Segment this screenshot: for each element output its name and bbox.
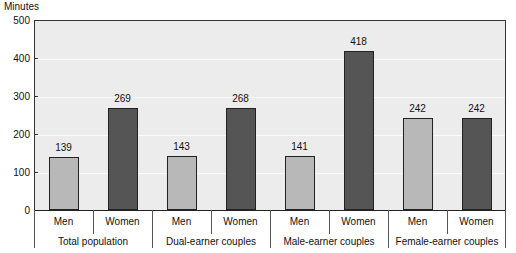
y-tick-mark <box>34 58 38 59</box>
bar-value-label: 242 <box>393 103 443 114</box>
category-label: Women <box>211 216 270 227</box>
group-label: Total population <box>34 236 152 247</box>
group-label: Dual-earner couples <box>152 236 270 247</box>
group-separator <box>505 210 506 248</box>
category-separator <box>211 210 212 234</box>
category-label: Women <box>93 216 152 227</box>
gridline <box>35 135 505 136</box>
plot-area <box>34 20 506 210</box>
bar-value-label: 268 <box>216 93 266 104</box>
bar-women <box>462 118 492 210</box>
y-tick-label: 0 <box>0 205 30 216</box>
group-separator <box>388 210 389 248</box>
category-label: Women <box>329 216 388 227</box>
y-tick-mark <box>34 20 38 21</box>
y-tick-mark <box>34 172 38 173</box>
bar-men <box>285 156 315 210</box>
gridline <box>35 59 505 60</box>
group-separator <box>34 210 35 248</box>
bar-value-label: 143 <box>157 141 207 152</box>
category-separator <box>93 210 94 234</box>
y-axis-label: Minutes <box>4 1 39 12</box>
category-label: Men <box>152 216 211 227</box>
bar-value-label: 141 <box>275 141 325 152</box>
category-separator <box>329 210 330 234</box>
bar-women <box>108 108 138 210</box>
bar-value-label: 418 <box>334 36 384 47</box>
y-tick-label: 300 <box>0 91 30 102</box>
y-tick-label: 500 <box>0 15 30 26</box>
bar-women <box>226 108 256 210</box>
y-tick-label: 200 <box>0 129 30 140</box>
bar-men <box>167 156 197 210</box>
category-label: Men <box>34 216 93 227</box>
bar-value-label: 269 <box>98 93 148 104</box>
bar-men <box>49 157 79 210</box>
group-label: Female-earner couples <box>388 236 506 247</box>
category-label: Women <box>447 216 506 227</box>
category-label: Men <box>388 216 447 227</box>
bar-women <box>344 51 374 210</box>
category-separator <box>447 210 448 234</box>
y-tick-label: 400 <box>0 53 30 64</box>
category-label: Men <box>270 216 329 227</box>
y-tick-label: 100 <box>0 167 30 178</box>
group-separator <box>152 210 153 248</box>
group-label: Male-earner couples <box>270 236 388 247</box>
bar-value-label: 139 <box>39 142 89 153</box>
group-separator <box>270 210 271 248</box>
bar-men <box>403 118 433 210</box>
y-tick-mark <box>34 96 38 97</box>
gridline <box>35 173 505 174</box>
y-tick-mark <box>34 134 38 135</box>
bar-value-label: 242 <box>452 103 502 114</box>
